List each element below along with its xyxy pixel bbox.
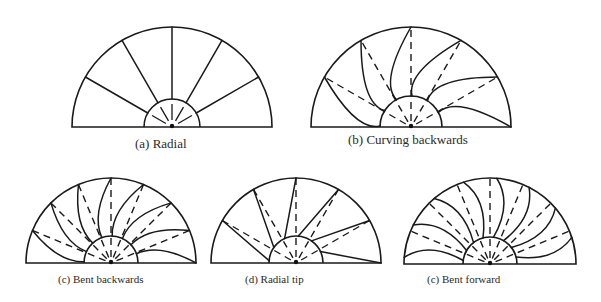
impeller-blade-types-figure	[0, 0, 601, 302]
shaft-center	[294, 260, 298, 264]
blade	[131, 230, 190, 245]
blade	[298, 189, 338, 236]
hub-stub	[152, 116, 166, 124]
caption-radial: (a) Radial	[135, 136, 187, 152]
blade	[311, 221, 369, 241]
blade	[78, 184, 93, 243]
blade	[463, 182, 483, 238]
caption-curving-backwards: (b) Curving backwards	[348, 132, 468, 148]
blade	[413, 224, 466, 250]
blade	[324, 77, 380, 126]
blade	[438, 106, 511, 127]
blade	[51, 203, 87, 252]
blade	[85, 77, 147, 113]
blade	[404, 250, 463, 260]
caption-radial-tip: (d) Radial tip	[245, 273, 304, 285]
blade	[222, 221, 269, 261]
blade	[196, 77, 258, 113]
panel-radial	[72, 27, 272, 128]
blade	[390, 27, 411, 100]
blade	[136, 250, 196, 263]
blade	[434, 199, 473, 243]
blade	[98, 178, 111, 238]
panel-bent-backwards	[26, 178, 196, 264]
hub-stub	[176, 107, 184, 121]
hub-arc	[380, 96, 442, 127]
blade	[516, 237, 572, 257]
blade	[122, 40, 158, 102]
panel-bent-forward	[404, 178, 576, 265]
hub-stub	[161, 107, 169, 121]
shaft-center	[109, 260, 113, 264]
caption-bent-backwards: (c) Bent backwards	[58, 273, 144, 285]
panel-radial-tip	[211, 178, 381, 264]
shaft-center	[170, 124, 174, 128]
blade	[320, 252, 381, 263]
shaft-center	[409, 124, 413, 128]
panel-curving-backwards	[311, 27, 511, 128]
blade	[504, 187, 530, 240]
blade	[285, 178, 296, 239]
blade	[412, 40, 461, 96]
caption-bent-forward: (c) Bent forward	[427, 273, 500, 285]
blade	[186, 40, 222, 102]
hub-stub	[178, 116, 192, 124]
blade	[122, 203, 171, 239]
blade	[511, 208, 555, 247]
shaft-center	[488, 261, 492, 265]
blade	[494, 178, 504, 237]
blade	[254, 189, 274, 247]
